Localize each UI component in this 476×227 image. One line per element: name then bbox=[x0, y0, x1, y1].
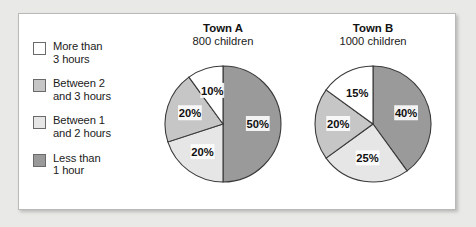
pie-chart-town-b: 40%25%20%15% bbox=[297, 50, 449, 200]
slice-label: 50% bbox=[247, 118, 269, 130]
legend: More than 3 hours Between 2 and 3 hours … bbox=[33, 40, 141, 189]
legend-swatch-less-than-1-hour bbox=[33, 154, 46, 167]
slice-label: 10% bbox=[201, 85, 223, 97]
slice-label: 15% bbox=[346, 87, 368, 99]
chart-town-a: Town A 800 children 50%20%20%10% bbox=[147, 19, 299, 200]
chart-subtitle: 1000 children bbox=[297, 35, 449, 48]
slice-label: 40% bbox=[395, 107, 417, 119]
figure-panel: More than 3 hours Between 2 and 3 hours … bbox=[18, 13, 456, 210]
legend-swatch-more-than-3-hours bbox=[33, 42, 46, 55]
slice-label: 20% bbox=[179, 107, 201, 119]
legend-swatch-between-1-and-2-hours bbox=[33, 116, 46, 129]
legend-swatch-between-2-and-3-hours bbox=[33, 79, 46, 92]
slice-label: 20% bbox=[191, 146, 213, 158]
legend-item: Less than 1 hour bbox=[33, 152, 141, 177]
legend-item: Between 2 and 3 hours bbox=[33, 77, 141, 102]
chart-town-b: Town B 1000 children 40%25%20%15% bbox=[297, 19, 449, 200]
legend-item-label: Between 1 and 2 hours bbox=[53, 114, 111, 139]
chart-title: Town B bbox=[297, 22, 449, 35]
chart-title: Town A bbox=[147, 22, 299, 35]
slice-label: 25% bbox=[356, 152, 378, 164]
legend-item-label: Less than 1 hour bbox=[53, 152, 101, 177]
slice-label: 20% bbox=[327, 118, 349, 130]
legend-item-label: Between 2 and 3 hours bbox=[53, 77, 111, 102]
legend-item: Between 1 and 2 hours bbox=[33, 114, 141, 139]
pie-chart-town-a: 50%20%20%10% bbox=[147, 50, 299, 200]
chart-subtitle: 800 children bbox=[147, 35, 299, 48]
legend-item: More than 3 hours bbox=[33, 40, 141, 65]
legend-item-label: More than 3 hours bbox=[53, 40, 102, 65]
